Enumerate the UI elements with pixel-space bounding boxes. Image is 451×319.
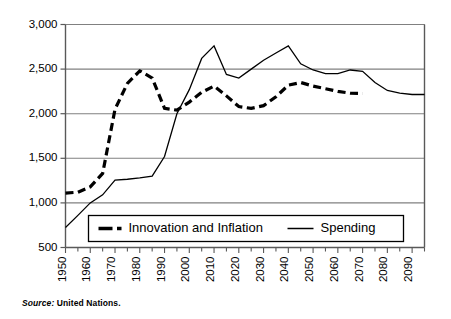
x-tick-label: 1990 [155,257,167,283]
line-chart: 5001,0001,5002,0002,5003,000 19501960197… [0,0,451,319]
x-tick-label: 2000 [179,257,191,283]
legend-label-2: Spending [321,220,376,235]
source-value: United Nations. [54,298,120,308]
x-tick-label: 1960 [80,257,92,283]
x-tick-label: 1980 [130,257,142,283]
y-tick-label: 500 [38,241,57,253]
x-tick-label: 2080 [377,257,389,283]
x-tick-label: 2040 [278,257,290,283]
source-note: Source: United Nations. [22,298,121,308]
x-tick-label: 1950 [56,257,68,283]
x-tick-label: 1970 [105,257,117,283]
legend-label-1: Innovation and Inflation [129,220,263,235]
x-tick-label: 2010 [204,257,216,283]
x-axis-labels: 1950196019701980199020002010202020302040… [56,257,415,283]
chart-figure: 5001,0001,5002,0002,5003,000 19501960197… [0,0,451,319]
x-tick-label: 2020 [229,257,241,283]
x-tick-label: 2090 [402,257,414,283]
chart-legend: Innovation and InflationSpending [89,216,404,242]
x-tick-label: 2030 [254,257,266,283]
y-tick-label: 3,000 [29,18,58,30]
x-tick-label: 2060 [328,257,340,283]
x-tick-label: 2070 [353,257,365,283]
y-tick-label: 2,000 [29,107,58,119]
y-tick-label: 2,500 [29,62,58,74]
y-tick-label: 1,500 [29,151,58,163]
x-tick-label: 2050 [303,257,315,283]
source-keyword: Source: [22,298,54,308]
y-tick-label: 1,000 [29,196,58,208]
